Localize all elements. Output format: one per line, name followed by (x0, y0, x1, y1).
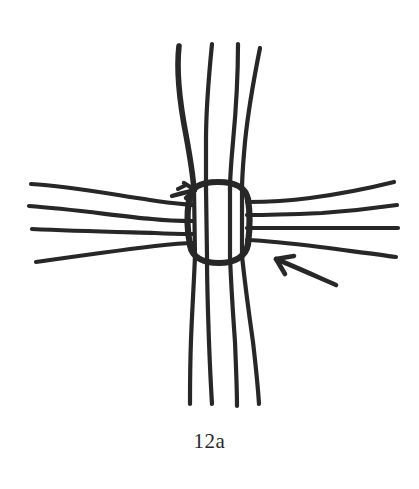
vertical-strand-bottom-3 (230, 256, 237, 406)
horizontal-strand-left-2 (29, 206, 193, 221)
horizontal-strand-right-4 (247, 240, 396, 257)
vertical-strand-bottom-4 (242, 256, 259, 404)
vertical-strand-bottom-2 (207, 256, 212, 404)
horizontal-strands-right (247, 182, 398, 257)
figure-illustration: 12a (0, 0, 419, 489)
horizontal-strands-left (29, 184, 194, 262)
loop-bottom-arc (190, 244, 248, 263)
vertical-strand-top-1 (178, 46, 194, 190)
vertical-strand-mid-2 (206, 188, 207, 256)
horizontal-strand-left-3 (32, 229, 193, 234)
loop-right-edge (248, 199, 250, 244)
vertical-strand-top-3 (230, 44, 238, 190)
ink-layer (29, 44, 398, 406)
vertical-strand-top-2 (206, 44, 212, 190)
loop-left-edge (188, 200, 190, 245)
vertical-strands-top (178, 44, 260, 190)
loop-top-arc (189, 182, 248, 200)
horizontal-strand-left-1 (31, 184, 193, 205)
knot-diagram-canvas (0, 0, 419, 489)
vertical-strands-bottom (190, 256, 259, 406)
vertical-strand-top-4 (242, 48, 260, 190)
vertical-strand-mid-1 (194, 188, 195, 256)
horizontal-strand-left-4 (36, 243, 194, 262)
vertical-strands-middle (194, 188, 242, 256)
upper-left-arrow-barb (178, 185, 186, 189)
upper-left-arrow (172, 183, 195, 198)
lower-right-arrow (276, 256, 336, 285)
vertical-strand-bottom-1 (190, 256, 195, 404)
figure-caption: 12a (0, 428, 419, 454)
horizontal-strand-right-2 (247, 205, 397, 215)
horizontal-strand-right-1 (247, 182, 394, 202)
